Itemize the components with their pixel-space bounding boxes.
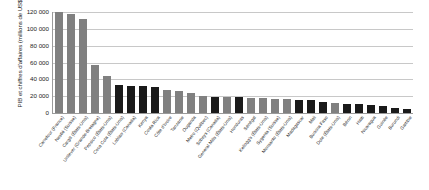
bar	[103, 76, 112, 113]
bar	[127, 86, 136, 113]
x-axis-tick-label-text: Haïti	[355, 115, 365, 126]
bar	[343, 104, 352, 113]
bar	[247, 98, 256, 113]
x-axis-tick-label-text: Mali	[307, 115, 316, 125]
bar	[139, 86, 148, 113]
bar	[319, 102, 328, 113]
bar	[187, 93, 196, 113]
bar	[67, 14, 76, 113]
bar	[163, 90, 172, 113]
y-axis-tick-label: 40 000	[10, 76, 49, 82]
plot-area	[52, 12, 413, 114]
bar	[295, 100, 304, 113]
bar	[235, 97, 244, 113]
x-axis-tick-label: Haïti	[355, 115, 365, 126]
bar	[307, 100, 316, 113]
bar-chart: PIB et chiffres d'affaires (millions de …	[0, 0, 429, 190]
bar	[331, 103, 340, 113]
x-axis-tick-labels: Carrefour (France)Nestlé (Suisse)Cargill…	[52, 113, 412, 190]
bar	[91, 65, 100, 113]
x-axis-tick-label: Mali	[307, 115, 316, 125]
bar	[271, 99, 280, 113]
y-axis-tick-label: 100 000	[10, 26, 49, 32]
x-axis-tick-label: Bénin	[341, 115, 352, 127]
bar	[199, 96, 208, 113]
y-axis-tick-label: 80 000	[10, 43, 49, 49]
y-axis-tick-label: 60 000	[10, 59, 49, 65]
bar	[355, 104, 364, 113]
bar	[367, 105, 376, 113]
y-axis-tick-labels: 020 00040 00060 00080 000100 000120 000	[10, 12, 49, 113]
bar	[223, 97, 232, 113]
x-axis-tick-label-text: Bénin	[341, 115, 352, 127]
bar	[115, 85, 124, 113]
bar	[259, 98, 268, 113]
bar	[55, 12, 64, 113]
bar	[151, 87, 160, 113]
y-axis-tick-label: 20 000	[10, 93, 49, 99]
bar	[175, 91, 184, 113]
y-axis-tick-label: 120 000	[10, 9, 49, 15]
bar	[79, 19, 88, 113]
bar	[283, 99, 292, 113]
y-axis-tick-label: 0	[10, 110, 49, 116]
bar-series	[53, 12, 413, 113]
bar	[379, 106, 388, 113]
bar	[211, 97, 220, 113]
